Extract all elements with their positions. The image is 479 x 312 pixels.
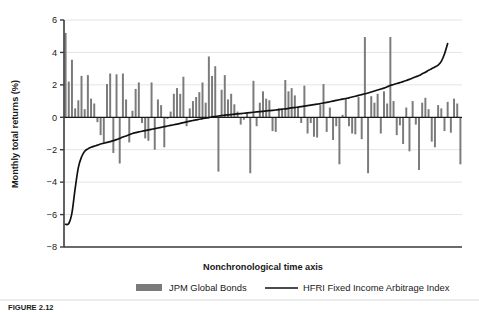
bar	[358, 97, 360, 117]
bar	[217, 117, 219, 171]
bar	[198, 92, 200, 117]
bar-series-jpm-global-bonds	[65, 33, 462, 173]
bar	[316, 117, 318, 137]
bar	[256, 117, 258, 126]
bar	[303, 86, 305, 118]
bar	[377, 94, 379, 118]
bar	[211, 76, 213, 117]
bar	[262, 91, 264, 117]
bar	[428, 109, 430, 117]
bar	[415, 117, 417, 124]
bar	[65, 33, 67, 117]
bar	[224, 75, 226, 117]
bar	[297, 108, 299, 118]
bar	[93, 104, 95, 118]
bar	[77, 100, 79, 117]
bar	[319, 105, 321, 117]
bar	[450, 117, 452, 132]
bar	[112, 117, 114, 153]
bar	[412, 101, 414, 117]
bar	[367, 117, 369, 173]
bar	[233, 104, 235, 117]
bar	[265, 99, 267, 118]
legend-label-jpm-global-bonds: JPM Global Bonds	[169, 282, 247, 293]
bar	[383, 91, 385, 117]
bar	[189, 108, 191, 117]
bar	[373, 103, 375, 118]
bar	[131, 111, 133, 117]
bar	[125, 99, 127, 117]
chart-legend: JPM Global Bonds HFRI Fixed Income Arbit…	[136, 282, 450, 293]
bar	[300, 117, 302, 123]
bar	[87, 75, 89, 117]
bar	[192, 101, 194, 117]
bar	[71, 60, 73, 118]
bar	[326, 117, 328, 132]
bar	[259, 103, 261, 118]
bar	[291, 88, 293, 117]
bar	[389, 37, 391, 117]
y-tick-label: −2	[47, 145, 57, 155]
y-tick-label: 6	[52, 15, 57, 25]
bar	[144, 117, 146, 138]
bar	[249, 117, 251, 173]
bar	[459, 117, 461, 164]
figure-container: 6420−2−4−6−8 Monthly total returns (%) N…	[0, 0, 479, 312]
bar	[431, 117, 433, 141]
bar	[109, 74, 111, 118]
bar	[405, 108, 407, 118]
bar	[100, 117, 102, 135]
figure-caption: FIGURE 2.12	[8, 303, 54, 312]
bar	[437, 105, 439, 117]
bar	[361, 117, 363, 139]
bar	[151, 82, 153, 117]
bar	[284, 80, 286, 117]
bar	[81, 76, 83, 117]
bar	[268, 100, 270, 117]
bar	[338, 117, 340, 164]
bar	[313, 117, 315, 136]
bar	[402, 117, 404, 144]
bar	[221, 90, 223, 118]
bar	[456, 104, 458, 118]
bar	[399, 117, 401, 125]
bar	[170, 112, 172, 118]
bar	[424, 98, 426, 117]
bar	[345, 99, 347, 118]
bar	[294, 95, 296, 117]
bar	[96, 117, 98, 122]
legend-label-hfri-index: HFRI Fixed Income Arbitrage Index	[303, 282, 450, 293]
bar	[329, 108, 331, 118]
y-tick-label: 0	[52, 113, 57, 123]
bar	[408, 117, 410, 151]
bar	[208, 56, 210, 117]
bar	[84, 109, 86, 117]
bar	[351, 117, 353, 133]
y-tick-label: −4	[47, 177, 57, 187]
bar	[453, 99, 455, 118]
bar	[386, 104, 388, 118]
bar	[163, 117, 165, 147]
bar	[74, 108, 76, 117]
y-tick-label: 2	[52, 80, 57, 90]
bar	[287, 91, 289, 117]
bar	[335, 117, 337, 126]
bar	[323, 84, 325, 117]
bar	[157, 99, 159, 117]
bar	[128, 117, 130, 142]
bar	[440, 108, 442, 117]
x-axis-title: Nonchronological time axis	[203, 262, 323, 272]
bar	[119, 117, 121, 163]
y-tick-label: 4	[52, 48, 57, 58]
bar	[393, 101, 395, 117]
bar	[103, 117, 105, 143]
chart-canvas: 6420−2−4−6−8 Monthly total returns (%) N…	[0, 0, 479, 312]
bar	[138, 82, 140, 117]
bar	[179, 94, 181, 118]
bar	[160, 105, 162, 117]
bar	[205, 103, 207, 118]
bar	[396, 117, 398, 135]
bar	[116, 74, 118, 117]
bar	[310, 117, 312, 123]
bar	[240, 117, 242, 124]
